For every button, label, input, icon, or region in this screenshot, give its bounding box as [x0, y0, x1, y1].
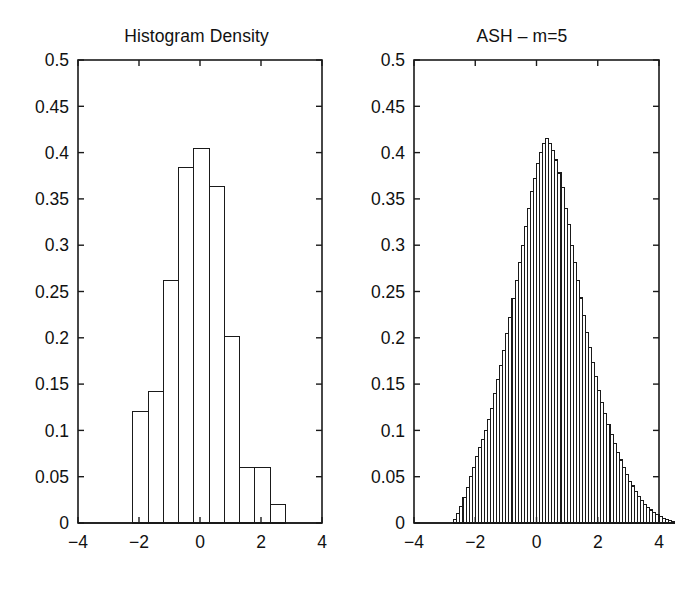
histogram-bar — [209, 187, 224, 523]
x-tick-label: −2 — [465, 532, 485, 552]
x-tick-label: 4 — [317, 532, 327, 552]
y-tick-label: 0.45 — [371, 97, 405, 117]
x-tick-label: −2 — [129, 532, 149, 552]
y-tick-label: 0.15 — [371, 374, 405, 394]
y-tick-label: 0.4 — [45, 143, 70, 163]
y-tick-label: 0.45 — [35, 97, 69, 117]
y-tick-label: 0.25 — [35, 282, 69, 302]
y-tick-label: 0.05 — [35, 467, 69, 487]
x-tick-label: −4 — [404, 532, 424, 552]
x-tick-label: 2 — [593, 532, 603, 552]
histogram-bar — [133, 412, 148, 523]
y-tick-label: 0.05 — [371, 467, 405, 487]
y-tick-label: 0.2 — [381, 328, 405, 348]
x-tick-label: −4 — [68, 532, 88, 552]
panel-ash-m5: ASH – m=5 00.050.10.150.20.250.30.350.40… — [345, 0, 691, 592]
histogram-bar — [194, 149, 209, 523]
plot-left: 00.050.10.150.20.250.30.350.40.450.5−4−2… — [0, 0, 345, 592]
y-tick-label: 0 — [59, 513, 69, 533]
figure-canvas: Histogram Density 00.050.10.150.20.250.3… — [0, 0, 691, 592]
histogram-bar — [148, 392, 163, 523]
y-tick-label: 0.2 — [45, 328, 69, 348]
y-tick-label: 0.3 — [381, 235, 405, 255]
y-tick-label: 0.1 — [381, 421, 405, 441]
panel-histogram-density: Histogram Density 00.050.10.150.20.250.3… — [0, 0, 345, 592]
y-tick-label: 0.35 — [371, 189, 405, 209]
y-tick-label: 0.1 — [45, 421, 69, 441]
histogram-bar — [163, 280, 178, 523]
x-tick-label: 4 — [654, 532, 664, 552]
x-tick-label: 0 — [532, 532, 542, 552]
y-tick-label: 0.5 — [381, 50, 405, 70]
histogram-bar — [671, 521, 674, 523]
y-tick-label: 0.25 — [371, 282, 405, 302]
histogram-bar — [240, 467, 255, 523]
histogram-bars — [133, 149, 286, 523]
histogram-bar — [270, 504, 285, 523]
y-tick-label: 0.3 — [45, 235, 69, 255]
y-tick-label: 0.15 — [35, 374, 69, 394]
x-tick-label: 2 — [256, 532, 266, 552]
y-tick-label: 0.5 — [45, 50, 69, 70]
y-tick-label: 0.35 — [35, 189, 69, 209]
histogram-bar — [224, 337, 239, 523]
x-tick-label: 0 — [195, 532, 205, 552]
histogram-bar — [255, 467, 270, 523]
y-tick-label: 0.4 — [381, 143, 406, 163]
y-tick-label: 0 — [395, 513, 405, 533]
histogram-bar — [179, 167, 194, 523]
histogram-bars — [454, 139, 675, 523]
axes-frame — [78, 60, 322, 523]
plot-right: 00.050.10.150.20.250.30.350.40.450.5−4−2… — [345, 0, 691, 592]
